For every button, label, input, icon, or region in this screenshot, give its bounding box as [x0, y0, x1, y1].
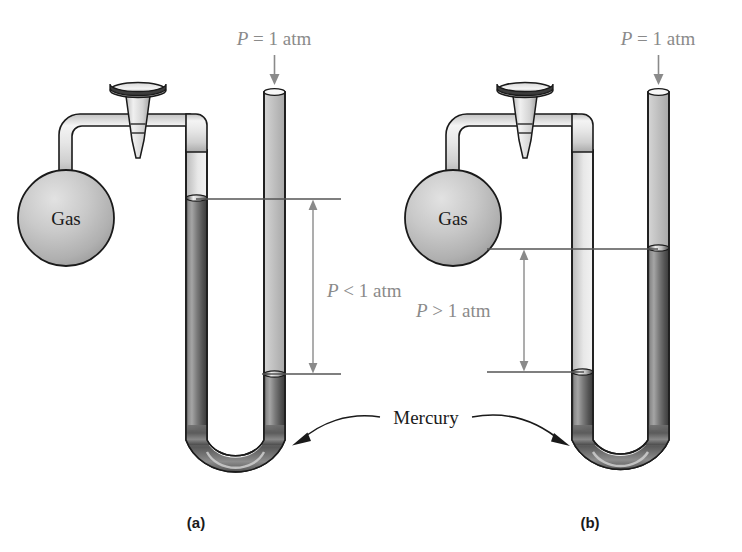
atm-arrow-b [654, 55, 664, 85]
atm-label-a: P = 1 atm [236, 28, 312, 49]
manometer-figure: Gas P = 1 atm P < 1 atm [0, 0, 742, 552]
manometer-panel-b: Gas P = 1 atm P > 1 atm (b) [405, 28, 695, 531]
meniscus-open-b [648, 245, 669, 251]
pressure-label-a: P < 1 atm [326, 280, 402, 301]
mercury-callout: Mercury [292, 407, 570, 446]
pressure-label-b: P > 1 atm [415, 300, 491, 321]
manometer-panel-a: Gas P = 1 atm P < 1 atm [18, 28, 402, 531]
figure-canvas: Gas P = 1 atm P < 1 atm [0, 0, 742, 552]
gas-bulb-label-b: Gas [438, 208, 468, 229]
panel-label-b: (b) [580, 514, 599, 531]
panel-label-a: (a) [187, 514, 205, 531]
atm-label-b: P = 1 atm [620, 28, 696, 49]
gas-bulb-label-a: Gas [51, 208, 81, 229]
meniscus-closed-a [186, 195, 207, 201]
atm-arrow-a [270, 55, 280, 85]
tube-open-top-b [648, 89, 669, 96]
mercury-label: Mercury [393, 407, 459, 428]
tube-open-top-a [264, 89, 285, 96]
